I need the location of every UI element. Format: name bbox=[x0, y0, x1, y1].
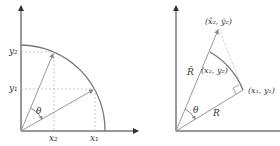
label-p1: (x₁, y₁) bbox=[248, 87, 275, 95]
vector-2 bbox=[21, 54, 53, 131]
label-theta-right: θ bbox=[193, 106, 198, 115]
label-hat-point: (x̂₂, ŷ₂) bbox=[205, 18, 232, 26]
R-line bbox=[176, 90, 243, 131]
arc bbox=[21, 45, 105, 131]
label-theta-left: θ bbox=[36, 107, 41, 116]
label-x2: x₂ bbox=[49, 134, 58, 143]
label-R: R bbox=[213, 109, 220, 118]
vector-1 bbox=[21, 90, 93, 131]
R-hat-line bbox=[176, 30, 218, 131]
label-x1: x₁ bbox=[90, 134, 99, 143]
label-p2: (x₂, y₂) bbox=[201, 67, 228, 75]
label-R-hat: R̂ bbox=[187, 68, 194, 77]
label-y1: y₁ bbox=[9, 84, 18, 93]
rotation-diagram: y₂ y₁ x₂ x₁ θ (x̂₂, ŷ₂) (x₂, y₂) (x₁, y… bbox=[0, 0, 280, 146]
label-y2: y₂ bbox=[9, 47, 18, 56]
diagram-canvas bbox=[0, 0, 280, 146]
